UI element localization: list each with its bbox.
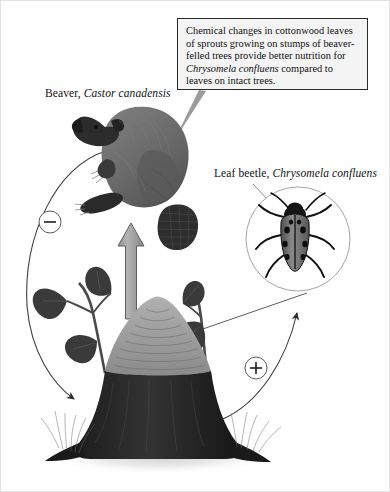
callout-line-4-prefix: nutrition for xyxy=(295,50,346,61)
beaver-label: Beaver, Castor canadensis xyxy=(45,87,171,99)
beaver-chewed-stump xyxy=(41,297,281,463)
beaver-tail xyxy=(158,204,198,251)
positive-sign-badge xyxy=(245,357,267,379)
beetle-leader-line xyxy=(197,293,307,331)
left-sprout xyxy=(33,267,112,373)
beetle-label: Leaf beetle, Chrysomela confluens xyxy=(214,167,377,179)
beetle-scientific-name: Chrysomela confluens xyxy=(272,167,377,179)
beaver-scientific-name: Castor canadensis xyxy=(84,87,171,99)
diagram-canvas: Chemical changes in cottonwood leaves of… xyxy=(0,0,390,492)
callout-textbox: Chemical changes in cottonwood leaves of… xyxy=(177,18,368,90)
beetle-common-name: Leaf beetle, xyxy=(214,167,272,179)
stump-to-beaver-arrow xyxy=(118,223,144,319)
beetle-inset xyxy=(246,187,350,291)
callout-line-1: Chemical changes in cottonwood xyxy=(186,25,324,36)
beaver-common-name: Beaver, xyxy=(45,87,84,99)
callout-species-name: Chrysomela confluens xyxy=(186,63,279,74)
negative-sign-badge xyxy=(39,211,61,233)
